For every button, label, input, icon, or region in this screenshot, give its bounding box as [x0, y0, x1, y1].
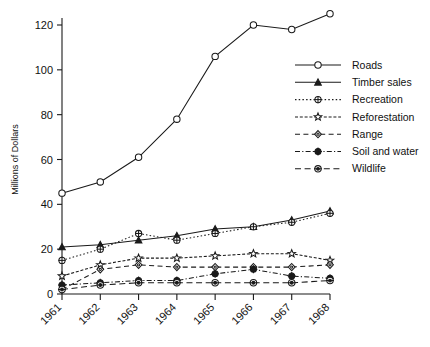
data-point-reforestation — [58, 272, 66, 279]
data-point-recreation — [97, 246, 104, 253]
y-tick-label: 20 — [41, 243, 53, 255]
x-tick-label: 1964 — [152, 301, 178, 327]
data-point-roads — [135, 154, 141, 160]
data-point-range — [135, 261, 142, 268]
legend-label-reforestation: Reforestation — [352, 111, 415, 123]
series-roads — [59, 11, 333, 197]
data-point-roads — [59, 190, 65, 196]
data-point-recreation — [212, 230, 219, 237]
data-point-wildlife — [135, 280, 143, 286]
legend-item-soil-and-water[interactable]: Soil and water — [295, 145, 419, 157]
legend-marker-soil-and-water — [314, 148, 322, 156]
data-point-roads — [212, 53, 218, 59]
x-tick-label: 1965 — [191, 301, 217, 327]
data-point-roads — [97, 179, 103, 185]
y-axis-label: Millions of Dollars — [10, 124, 20, 195]
legend-label-soil-and-water: Soil and water — [352, 145, 419, 157]
x-tick-label: 1963 — [114, 301, 140, 327]
chart-canvas: 020406080100120Millions of Dollars196119… — [0, 0, 430, 347]
series-line-roads — [62, 14, 330, 193]
legend-label-range: Range — [352, 128, 383, 140]
data-point-recreation — [250, 223, 257, 230]
series-timber-sales — [59, 208, 334, 250]
data-point-wildlife — [173, 280, 181, 286]
data-point-range — [288, 264, 295, 271]
y-tick-label: 40 — [41, 198, 53, 210]
legend-marker-wildlife — [314, 166, 322, 172]
data-point-roads — [289, 26, 295, 32]
data-point-roads — [327, 11, 333, 17]
legend-marker-recreation — [314, 96, 321, 103]
data-point-roads — [174, 116, 180, 122]
legend-label-recreation: Recreation — [352, 93, 403, 105]
legend-label-roads: Roads — [352, 59, 382, 71]
data-point-reforestation — [211, 252, 219, 259]
data-point-recreation — [173, 237, 180, 244]
data-point-reforestation — [173, 254, 181, 261]
legend-item-timber-sales[interactable]: Timber sales — [295, 76, 412, 88]
legend-item-range[interactable]: Range — [295, 128, 383, 140]
data-point-range — [212, 264, 219, 271]
data-point-recreation — [58, 257, 65, 264]
x-tick-label: 1967 — [267, 301, 293, 327]
line-chart: 020406080100120Millions of Dollars196119… — [0, 0, 430, 347]
y-tick-label: 80 — [41, 109, 53, 121]
data-point-wildlife — [250, 280, 258, 286]
legend-marker-range — [315, 131, 322, 138]
x-tick-label: 1961 — [38, 301, 64, 327]
data-point-soil-and-water — [211, 270, 219, 278]
y-tick-label: 60 — [41, 154, 53, 166]
legend-item-reforestation[interactable]: Reforestation — [295, 111, 415, 123]
legend-item-recreation[interactable]: Recreation — [295, 93, 403, 105]
legend-marker-roads — [315, 62, 321, 68]
data-point-recreation — [326, 210, 333, 217]
data-point-wildlife — [326, 277, 334, 283]
data-point-reforestation — [250, 250, 258, 257]
data-point-reforestation — [135, 254, 143, 261]
legend-item-wildlife[interactable]: Wildlife — [295, 162, 386, 174]
data-point-wildlife — [211, 280, 219, 286]
data-point-recreation — [288, 219, 295, 226]
x-tick-label: 1966 — [229, 301, 255, 327]
legend-marker-reforestation — [314, 113, 322, 120]
data-point-wildlife — [96, 282, 104, 288]
y-tick-label: 100 — [35, 64, 53, 76]
data-point-wildlife — [58, 286, 66, 292]
x-tick-label: 1962 — [76, 301, 102, 327]
x-tick-label: 1968 — [306, 301, 332, 327]
data-point-recreation — [135, 230, 142, 237]
data-point-wildlife — [288, 280, 296, 286]
y-tick-label: 120 — [35, 19, 53, 31]
data-point-soil-and-water — [288, 272, 296, 280]
data-point-reforestation — [288, 250, 296, 257]
y-tick-label: 0 — [47, 288, 53, 300]
legend-label-timber-sales: Timber sales — [352, 76, 412, 88]
data-point-range — [173, 264, 180, 271]
data-point-roads — [250, 22, 256, 28]
series-line-timber-sales — [62, 211, 330, 247]
legend-label-wildlife: Wildlife — [352, 162, 386, 174]
legend-item-roads[interactable]: Roads — [295, 59, 382, 71]
